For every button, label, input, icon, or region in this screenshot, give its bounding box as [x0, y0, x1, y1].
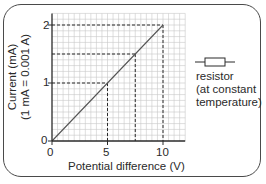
legend-line-3: temperature): [196, 96, 262, 109]
y-tick-label-2: 2: [43, 20, 49, 32]
x-axis-label: Potential difference (V): [68, 161, 185, 173]
y-axis-label-line1: Current (mA): [6, 13, 19, 141]
legend-line-1: resistor: [196, 70, 262, 83]
y-tick-label-0: 0: [41, 135, 47, 147]
y-axis-label: Current (mA) (1 mA = 0.001 A): [6, 13, 32, 141]
legend-line-2: (at constant: [196, 83, 262, 96]
legend-label: resistor (at constant temperature): [196, 70, 262, 109]
x-tick-label-0: 0: [47, 147, 53, 159]
y-axis-label-line2: (1 mA = 0.001 A): [19, 13, 32, 141]
y-tick-label-1: 1: [43, 77, 49, 89]
x-tick-label-5: 5: [103, 147, 109, 159]
x-tick-label-10: 10: [156, 147, 169, 159]
